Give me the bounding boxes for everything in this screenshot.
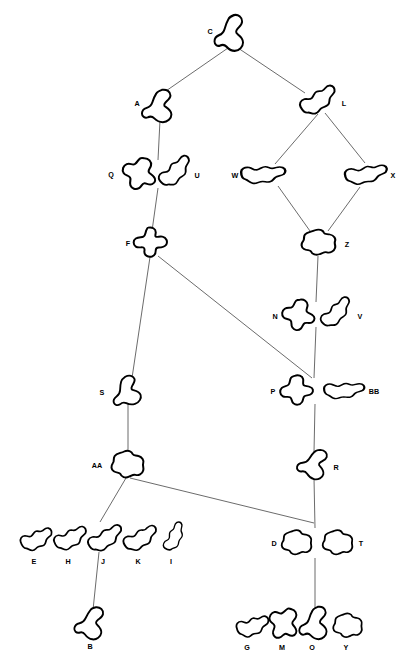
node-label-f: F bbox=[126, 239, 131, 248]
node-o[interactable] bbox=[299, 607, 326, 639]
node-v[interactable] bbox=[318, 295, 356, 331]
node-shape-g bbox=[235, 615, 271, 639]
node-k[interactable] bbox=[122, 524, 161, 554]
node-shape-j bbox=[86, 523, 126, 555]
node-label-i: I bbox=[170, 557, 172, 566]
node-label-t: T bbox=[359, 539, 364, 548]
edge-n-p bbox=[314, 327, 316, 378]
node-w[interactable] bbox=[241, 167, 285, 184]
node-p[interactable] bbox=[277, 372, 315, 408]
molecule-graph-diagram: CALQUWXFZNVSPBBAAREHJKIDTBGMOY bbox=[0, 0, 416, 668]
node-label-k: K bbox=[135, 557, 141, 566]
node-label-c: C bbox=[207, 27, 212, 36]
node-b[interactable] bbox=[73, 604, 105, 640]
node-j[interactable] bbox=[86, 523, 126, 555]
node-l[interactable] bbox=[298, 84, 341, 119]
node-e[interactable] bbox=[19, 527, 55, 554]
node-shape-a bbox=[142, 90, 171, 122]
node-shape-d bbox=[282, 530, 312, 554]
node-shape-m bbox=[263, 602, 304, 644]
node-shape-b bbox=[73, 604, 105, 640]
node-label-v: V bbox=[358, 312, 363, 321]
node-q[interactable] bbox=[119, 154, 159, 193]
node-a[interactable] bbox=[142, 90, 171, 122]
node-label-o: O bbox=[309, 643, 315, 652]
edge-c-l bbox=[238, 48, 305, 93]
node-shape-y bbox=[333, 613, 362, 637]
edges-layer bbox=[93, 48, 365, 610]
node-label-q: Q bbox=[108, 170, 114, 179]
node-label-aa: AA bbox=[92, 461, 102, 470]
graph-canvas: CALQUWXFZNVSPBBAAREHJKIDTBGMOY bbox=[0, 0, 416, 668]
node-i[interactable] bbox=[161, 521, 189, 554]
edge-a-q bbox=[158, 120, 160, 160]
node-label-j: J bbox=[101, 557, 105, 566]
edge-l-x bbox=[325, 113, 365, 163]
node-shape-p bbox=[277, 372, 315, 408]
node-bb[interactable] bbox=[324, 384, 364, 399]
node-shape-f bbox=[134, 227, 167, 256]
node-n[interactable] bbox=[282, 300, 314, 331]
node-shape-r bbox=[295, 445, 329, 481]
node-shape-l bbox=[298, 84, 341, 119]
edge-aa-d bbox=[130, 478, 314, 523]
node-m[interactable] bbox=[263, 602, 304, 644]
edge-x-z bbox=[328, 187, 360, 231]
node-label-z: Z bbox=[345, 240, 350, 249]
node-r[interactable] bbox=[295, 445, 329, 481]
node-label-bb: BB bbox=[369, 387, 379, 396]
edge-f-s bbox=[132, 257, 150, 378]
node-aa[interactable] bbox=[111, 451, 143, 478]
node-t[interactable] bbox=[323, 530, 353, 554]
edge-q-f bbox=[152, 188, 158, 231]
node-u[interactable] bbox=[156, 154, 196, 190]
node-label-g: G bbox=[244, 643, 250, 652]
node-label-s: S bbox=[100, 388, 105, 397]
edge-l-w bbox=[275, 114, 318, 164]
node-shape-n bbox=[282, 300, 314, 331]
node-label-p: P bbox=[271, 387, 276, 396]
node-shape-c bbox=[215, 15, 244, 51]
node-label-y: Y bbox=[344, 643, 349, 652]
node-label-w: W bbox=[232, 171, 239, 180]
edge-j-b bbox=[93, 552, 99, 610]
node-label-e: E bbox=[32, 557, 37, 566]
edge-aa-j bbox=[100, 478, 126, 522]
node-shape-u bbox=[156, 154, 196, 190]
node-label-n: N bbox=[272, 312, 277, 321]
node-shape-h bbox=[52, 525, 90, 553]
node-x[interactable] bbox=[344, 165, 388, 186]
node-shape-v bbox=[318, 295, 356, 331]
node-shape-w bbox=[241, 167, 285, 184]
edge-r-d bbox=[314, 478, 315, 528]
edge-c-a bbox=[163, 48, 228, 93]
node-shape-i bbox=[161, 521, 189, 554]
node-y[interactable] bbox=[333, 613, 362, 637]
node-shape-s bbox=[107, 374, 143, 410]
node-label-r: R bbox=[333, 463, 339, 472]
node-shape-t bbox=[323, 530, 353, 554]
node-c[interactable] bbox=[215, 15, 244, 51]
node-shape-x bbox=[344, 165, 388, 186]
node-shape-bb bbox=[324, 384, 364, 399]
node-label-d: D bbox=[271, 539, 276, 548]
node-s[interactable] bbox=[107, 374, 143, 410]
node-label-b: B bbox=[87, 642, 92, 651]
node-d[interactable] bbox=[282, 530, 312, 554]
node-shape-e bbox=[19, 527, 55, 554]
edge-w-z bbox=[278, 186, 310, 231]
node-shape-o bbox=[299, 607, 326, 639]
nodes-layer bbox=[19, 15, 388, 644]
node-label-l: L bbox=[342, 99, 347, 108]
edge-z-n bbox=[316, 256, 318, 302]
node-shape-q bbox=[119, 154, 159, 193]
node-g[interactable] bbox=[235, 615, 271, 639]
node-label-a: A bbox=[134, 99, 139, 108]
node-label-m: M bbox=[279, 643, 285, 652]
node-z[interactable] bbox=[302, 230, 336, 255]
node-shape-k bbox=[122, 524, 161, 554]
labels-layer: CALQUWXFZNVSPBBAAREHJKIDTBGMOY bbox=[32, 27, 396, 652]
node-f[interactable] bbox=[134, 227, 167, 256]
node-h[interactable] bbox=[52, 525, 90, 553]
node-shape-z bbox=[302, 230, 336, 255]
